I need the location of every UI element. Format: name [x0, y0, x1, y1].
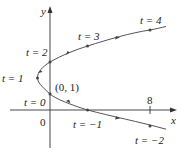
y-axis-arrow-icon — [48, 6, 53, 13]
point-t-0 — [49, 93, 52, 96]
x-axis-arrow-icon — [170, 108, 177, 113]
point-t-1 — [36, 77, 39, 80]
point-t-neg2 — [149, 125, 152, 128]
y-axis-label: y — [40, 5, 46, 17]
point-t-2 — [49, 61, 52, 64]
x-tick-label-8: 8 — [147, 94, 153, 106]
point-t-4 — [149, 29, 152, 32]
label-t-0: t = 0 — [24, 96, 46, 108]
x-axis-label: x — [170, 114, 176, 126]
label-t-neg2: t = −2 — [135, 134, 164, 146]
point-t-neg1 — [86, 109, 89, 112]
label-t-2: t = 2 — [26, 46, 48, 58]
origin-label: 0 — [40, 116, 46, 128]
parametric-curve-diagram: y x 0 8 (0, 1) t = 2 t = 1 t = 0 t = −1 … — [0, 0, 185, 156]
label-t-1: t = 1 — [2, 72, 23, 84]
label-t-neg1: t = −1 — [73, 118, 102, 130]
point-t-3 — [86, 45, 89, 48]
arrow-icon — [38, 70, 43, 73]
parameter-points — [36, 29, 152, 128]
curve — [38, 27, 167, 130]
label-t-3: t = 3 — [78, 30, 100, 42]
point-label-0-1: (0, 1) — [55, 81, 79, 94]
label-t-4: t = 4 — [140, 14, 162, 26]
